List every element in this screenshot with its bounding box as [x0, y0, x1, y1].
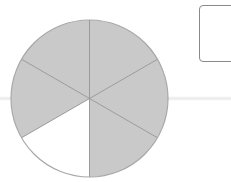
fraction-circle — [0, 0, 231, 182]
answer-box[interactable] — [199, 5, 231, 62]
